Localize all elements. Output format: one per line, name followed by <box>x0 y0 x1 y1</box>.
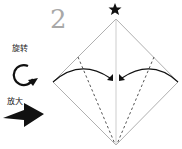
arrow-right-icon <box>3 103 44 127</box>
fold-arrows <box>53 69 178 82</box>
arrowhead-left <box>107 74 113 81</box>
arrowhead-right <box>119 74 125 81</box>
star-icon <box>109 3 122 15</box>
paper-outline <box>53 19 178 145</box>
origami-diagram <box>0 0 182 149</box>
rotate-clockwise-icon <box>14 65 38 86</box>
